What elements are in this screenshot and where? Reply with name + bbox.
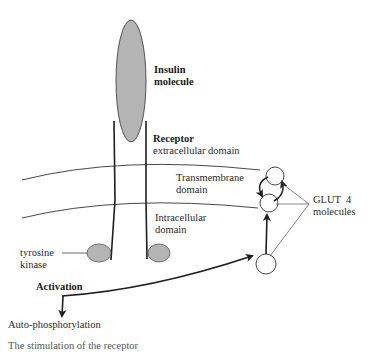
label-activation: Activation — [36, 281, 83, 293]
tyrosine-kinase-right — [148, 244, 170, 262]
glut4-leader-bottom — [270, 204, 309, 256]
label-transmembrane-domain: domain — [176, 184, 208, 196]
glut4-circle-bottom — [256, 254, 276, 274]
label-insulin: Insulin — [154, 64, 186, 76]
label-auto-phosphorylation: Auto-phosphorylation — [8, 319, 101, 331]
glut4-circle-top — [266, 167, 284, 185]
cut-off-caption: The stimulation of the receptor — [8, 340, 138, 352]
translocation-arrow — [266, 215, 267, 254]
label-tyrosine: tyrosine — [20, 247, 54, 259]
receptor-left-line — [111, 121, 115, 260]
label-glut4: GLUT 4 — [313, 194, 351, 206]
label-molecule: molecule — [154, 76, 194, 88]
receptor-right-line — [146, 121, 147, 259]
auto-phosphorylation-arrow — [62, 296, 63, 316]
label-extracellular-domain: extracellular domain — [153, 145, 240, 157]
tyrosine-kinase-left — [87, 244, 111, 262]
membrane-inner-line — [22, 203, 258, 218]
label-kinase: kinase — [20, 259, 47, 271]
label-intracellular: Intracellular — [155, 212, 206, 224]
insulin-molecule-shape — [116, 20, 146, 142]
glut4-circle-middle — [260, 194, 278, 212]
glut4-leader-top — [280, 182, 309, 204]
label-transmembrane: Transmembrane — [176, 172, 244, 184]
label-receptor: Receptor — [153, 133, 194, 145]
cut-off-header-text: … — [0, 0, 376, 3]
label-intracellular-domain: domain — [155, 224, 187, 236]
label-glut4-molecules: molecules — [313, 206, 356, 218]
